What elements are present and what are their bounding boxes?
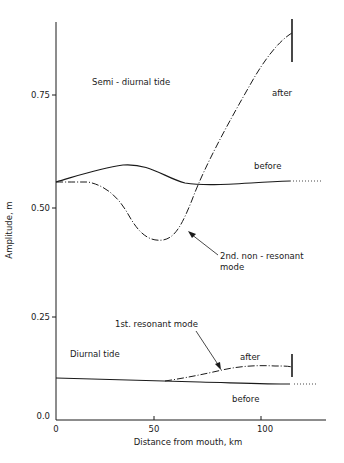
chart-svg: 0.75 0.50 0.25 0.0 0 50 100 Distance fro… (0, 0, 344, 463)
diurnal-label: Diurnal tide (70, 349, 120, 359)
y-tick-050: 0.50 (31, 203, 50, 213)
x-tick-100: 100 (257, 424, 273, 434)
y-tick-025: 0.25 (31, 312, 50, 322)
semi-diurnal-label: Semi - diurnal tide (92, 77, 170, 87)
first-mode-arrow (196, 331, 221, 370)
y-axis-label: Amplitude, m (4, 201, 14, 258)
x-axis-label: Distance from mouth, km (134, 437, 243, 447)
semi-diurnal-after-line (56, 33, 292, 240)
diurnal-after-line (165, 366, 292, 381)
diurnal-before-line (56, 378, 290, 384)
first-mode-label: 1st. resonant mode (115, 319, 198, 329)
before-semi-label: before (254, 161, 281, 171)
before-diurnal-label: before (232, 394, 259, 404)
y-ticks: 0.75 0.50 0.25 0.0 (31, 90, 56, 421)
x-ticks: 0 50 100 (53, 416, 273, 434)
second-mode-arrow (188, 231, 218, 255)
x-tick-0: 0 (53, 424, 58, 434)
second-mode-label-2: mode (220, 262, 244, 272)
y-tick-00: 0.0 (36, 411, 50, 421)
y-tick-075: 0.75 (31, 90, 50, 100)
after-diurnal-label: after (240, 352, 261, 362)
after-semi-label: after (272, 88, 293, 98)
x-tick-50: 50 (149, 424, 160, 434)
second-mode-label-1: 2nd. non - resonant (220, 251, 304, 261)
